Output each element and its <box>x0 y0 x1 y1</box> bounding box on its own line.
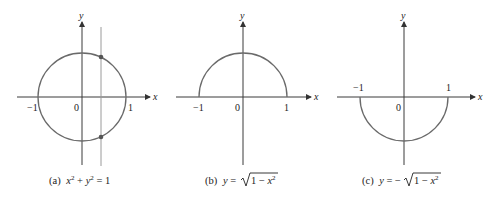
x-axis-label: x <box>152 91 158 102</box>
x-axis-label: x <box>313 91 319 102</box>
intersection-point-bottom <box>99 135 104 140</box>
panel-c: y x −1 0 1 (c) y = − 1 − x2 <box>337 10 483 187</box>
sqrt-expression-b: 1 − x2 <box>241 173 278 186</box>
y-axis-label: y <box>400 10 406 21</box>
svg-text:1 − x2: 1 − x2 <box>251 174 276 186</box>
sqrt-expression-c: 1 − x2 <box>404 173 441 186</box>
tick-neg-one: −1 <box>353 82 364 93</box>
tick-one: 1 <box>128 102 133 113</box>
tick-one: 1 <box>446 82 451 93</box>
tick-one: 1 <box>284 102 289 113</box>
panel-a: y x −1 0 1 (a) x2 + y2 = 1 <box>17 10 158 187</box>
y-axis-label: y <box>239 10 245 21</box>
caption-c: (c) y = − <box>362 175 401 187</box>
caption-a: (a) x2 + y2 = 1 <box>49 174 110 187</box>
y-axis-label: y <box>78 10 84 21</box>
caption-b: (b) y = <box>205 175 236 187</box>
panel-b: y x −1 0 1 (b) y = 1 − x2 <box>176 10 319 187</box>
figure: y x −1 0 1 (a) x2 + y2 = 1 y x −1 0 1 (b… <box>0 0 494 199</box>
x-axis-label: x <box>477 91 483 102</box>
tick-origin: 0 <box>396 102 401 113</box>
svg-text:1 − x2: 1 − x2 <box>414 174 439 186</box>
intersection-point-top <box>99 55 104 60</box>
tick-origin: 0 <box>74 102 79 113</box>
tick-neg-one: −1 <box>193 102 204 113</box>
tick-origin: 0 <box>235 102 240 113</box>
tick-neg-one: −1 <box>27 102 38 113</box>
